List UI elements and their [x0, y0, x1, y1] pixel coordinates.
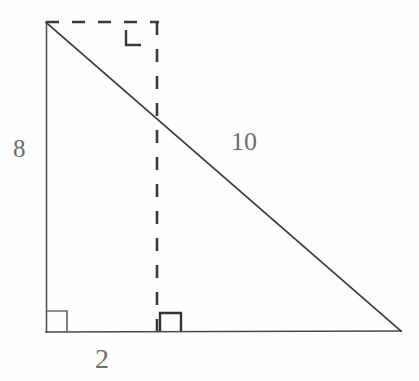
label-vertical-leg: 8 — [13, 136, 26, 161]
bottom-middle-right-angle-marker — [160, 313, 181, 331]
hypotenuse-line — [46, 23, 401, 332]
bottom-left-right-angle-marker — [47, 311, 68, 332]
geometry-canvas — [0, 0, 419, 381]
label-hypotenuse: 10 — [231, 129, 257, 155]
geometry-figure: 8 10 2 — [0, 0, 419, 381]
top-right-right-angle-marker — [126, 30, 141, 45]
label-base-segment: 2 — [95, 345, 109, 373]
base-leg-line — [46, 331, 401, 332]
